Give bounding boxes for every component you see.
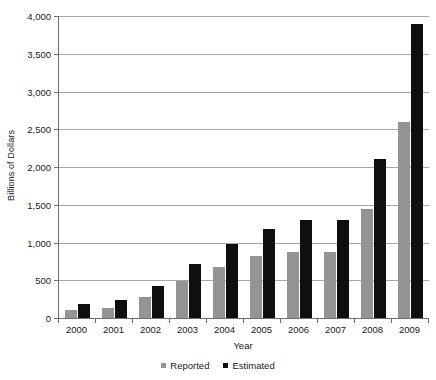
x-axis-tick [243, 318, 244, 323]
y-axis-tick-label: 2,500 [27, 124, 51, 135]
bar-group [207, 16, 244, 318]
x-axis-tick [58, 318, 59, 323]
legend-swatch-icon [161, 363, 166, 368]
legend-swatch-icon [223, 363, 228, 368]
bar-reported-2008 [361, 209, 373, 318]
x-axis-tick [354, 318, 355, 323]
x-axis-label-2000: 2000 [58, 324, 95, 335]
legend-item-estimated: Estimated [223, 360, 274, 371]
x-axis-label-2004: 2004 [206, 324, 243, 335]
bar-estimated-2002 [152, 286, 164, 318]
bar-reported-2006 [287, 252, 299, 318]
x-axis-label-2008: 2008 [354, 324, 391, 335]
bar-estimated-2007 [337, 220, 349, 318]
bar-reported-2000 [65, 310, 77, 318]
bar-group [281, 16, 318, 318]
y-axis-title: Billions of Dollars [0, 0, 22, 330]
y-axis-tick-label: 3,000 [27, 86, 51, 97]
x-axis-labels: 2000200120022003200420052006200720082009 [58, 324, 428, 335]
x-axis-tick [391, 318, 392, 323]
x-axis-label-2007: 2007 [317, 324, 354, 335]
y-axis-tick-label: 3,500 [27, 48, 51, 59]
bar-reported-2007 [324, 252, 336, 318]
x-axis-tick [95, 318, 96, 323]
y-axis-tick-label: 500 [35, 275, 51, 286]
bar-groups [59, 16, 429, 318]
bar-group [170, 16, 207, 318]
x-axis-ticks [58, 318, 428, 323]
chart-legend: ReportedEstimated [0, 360, 436, 371]
bar-estimated-2005 [263, 229, 275, 318]
bar-group [392, 16, 429, 318]
x-axis-tick [428, 318, 429, 323]
x-axis-tick [317, 318, 318, 323]
x-axis-tick [169, 318, 170, 323]
x-axis-label-2001: 2001 [95, 324, 132, 335]
bar-estimated-2009 [411, 24, 423, 318]
y-axis-tick-label: 0 [46, 313, 51, 324]
legend-label: Reported [170, 360, 209, 371]
bar-reported-2001 [102, 308, 114, 318]
bar-group [133, 16, 170, 318]
bar-reported-2002 [139, 297, 151, 318]
legend-item-reported: Reported [161, 360, 209, 371]
bar-group [96, 16, 133, 318]
y-axis-tick-label: 1,500 [27, 199, 51, 210]
bar-chart: Billions of Dollars 05001,0001,5002,0002… [0, 0, 436, 380]
x-axis-label-2006: 2006 [280, 324, 317, 335]
x-axis-tick [280, 318, 281, 323]
y-axis-tick-label: 4,000 [27, 11, 51, 22]
bar-estimated-2000 [78, 304, 90, 318]
bar-group [318, 16, 355, 318]
plot-area: 05001,0001,5002,0002,5003,0003,5004,000 [58, 16, 429, 319]
bar-group [59, 16, 96, 318]
x-axis-title: Year [58, 340, 428, 351]
x-axis-tick [206, 318, 207, 323]
bar-reported-2004 [213, 267, 225, 318]
x-axis-label-2009: 2009 [391, 324, 428, 335]
bar-reported-2005 [250, 256, 262, 318]
x-axis-tick [132, 318, 133, 323]
y-axis-tick-label: 2,000 [27, 162, 51, 173]
x-axis-label-2003: 2003 [169, 324, 206, 335]
bar-group [355, 16, 392, 318]
bar-estimated-2001 [115, 300, 127, 318]
bar-estimated-2006 [300, 220, 312, 318]
x-axis-label-2005: 2005 [243, 324, 280, 335]
bar-estimated-2008 [374, 159, 386, 318]
y-axis-tick-label: 1,000 [27, 237, 51, 248]
bar-reported-2009 [398, 122, 410, 318]
bar-group [244, 16, 281, 318]
bar-estimated-2004 [226, 244, 238, 318]
x-axis-label-2002: 2002 [132, 324, 169, 335]
bar-estimated-2003 [189, 264, 201, 318]
legend-label: Estimated [232, 360, 274, 371]
bar-reported-2003 [176, 281, 188, 318]
y-axis-title-label: Billions of Dollars [6, 130, 16, 201]
